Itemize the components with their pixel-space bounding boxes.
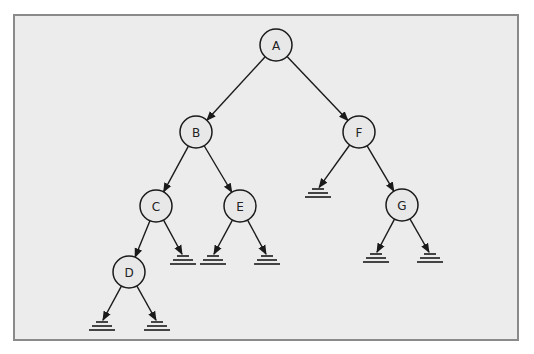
tree-node-c: C bbox=[140, 190, 172, 222]
node-label: B bbox=[192, 126, 200, 140]
tree-node-e: E bbox=[224, 190, 256, 222]
tree-node-g: G bbox=[386, 189, 418, 221]
tree-node-b: B bbox=[180, 116, 212, 148]
tree-node-f: F bbox=[343, 116, 375, 148]
tree-node-d: D bbox=[113, 256, 145, 288]
node-label: E bbox=[236, 200, 244, 214]
diagram-frame bbox=[14, 15, 518, 340]
node-label: A bbox=[272, 39, 281, 53]
node-label: D bbox=[124, 266, 133, 280]
node-label: C bbox=[152, 200, 160, 214]
tree-node-a: A bbox=[260, 29, 292, 61]
binary-tree-diagram: ABFCEGD bbox=[0, 0, 534, 354]
node-label: G bbox=[397, 199, 406, 213]
node-label: F bbox=[356, 126, 363, 140]
